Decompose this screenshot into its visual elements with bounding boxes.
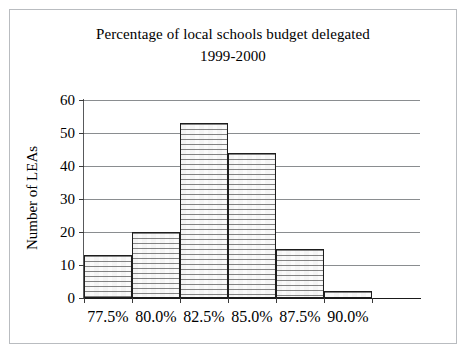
x-axis-tick-mark	[228, 298, 229, 303]
y-axis-tick-mark	[79, 166, 84, 167]
bar	[276, 249, 324, 299]
y-axis-tick-mark	[79, 100, 84, 101]
x-axis-tick-label: 85.0%	[231, 309, 272, 325]
bar	[132, 232, 180, 298]
chart-title-block: Percentage of local schools budget deleg…	[0, 24, 466, 68]
gridline	[84, 133, 420, 134]
y-axis-tick-mark	[79, 199, 84, 200]
y-axis-tick-label: 10	[60, 258, 75, 273]
y-axis-tick-label: 0	[68, 291, 76, 306]
x-axis-tick-label: 90.0%	[327, 309, 368, 325]
x-axis-tick-mark	[84, 298, 85, 303]
x-axis-line	[83, 298, 421, 299]
x-axis-tick-label: 82.5%	[183, 309, 224, 325]
x-axis-tick-label: 77.5%	[87, 309, 128, 325]
x-axis-tick-mark	[132, 298, 133, 303]
x-axis-tick-label: 87.5%	[279, 309, 320, 325]
chart-figure: Percentage of local schools budget deleg…	[0, 0, 466, 353]
x-axis-tick-mark	[180, 298, 181, 303]
chart-title: Percentage of local schools budget deleg…	[0, 24, 466, 46]
y-axis-tick-mark	[79, 232, 84, 233]
chart-subtitle: 1999-2000	[0, 46, 466, 68]
bar	[180, 123, 228, 298]
bar	[228, 153, 276, 298]
bar	[324, 291, 372, 298]
y-axis-tick-label: 60	[60, 93, 75, 108]
y-axis-title: Number of LEAs	[24, 98, 44, 298]
y-axis-tick-label: 40	[60, 159, 75, 174]
x-axis-tick-mark	[276, 298, 277, 303]
x-axis-tick-mark	[324, 298, 325, 303]
x-axis-tick-label: 80.0%	[135, 309, 176, 325]
y-axis-tick-label: 20	[60, 225, 75, 240]
y-axis-tick-label: 30	[60, 192, 75, 207]
plot-area: 0102030405060 77.5%80.0%82.5%85.0%87.5%9…	[84, 100, 420, 298]
x-axis-tick-mark	[372, 298, 373, 303]
y-axis-tick-mark	[79, 133, 84, 134]
bar	[84, 255, 132, 298]
gridline	[84, 100, 420, 101]
y-axis-tick-label: 50	[60, 126, 75, 141]
